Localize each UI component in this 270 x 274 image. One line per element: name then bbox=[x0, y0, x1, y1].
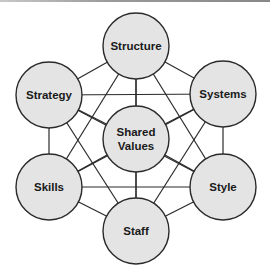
node-shared-values: SharedValues bbox=[103, 106, 169, 172]
node-circle bbox=[103, 106, 169, 172]
node-label: Structure bbox=[110, 40, 161, 52]
node-label: Style bbox=[209, 181, 237, 193]
node-label: Staff bbox=[123, 225, 149, 237]
nodes: StructureStrategySystemsSharedValuesSkil… bbox=[16, 13, 256, 264]
node-style: Style bbox=[190, 154, 256, 220]
node-systems: Systems bbox=[190, 61, 256, 127]
node-structure: Structure bbox=[103, 13, 169, 79]
seven-s-diagram: StructureStrategySystemsSharedValuesSkil… bbox=[0, 0, 270, 274]
node-strategy: Strategy bbox=[16, 62, 82, 128]
node-label: Shared bbox=[117, 126, 156, 138]
node-label: Values bbox=[118, 140, 154, 152]
node-skills: Skills bbox=[16, 154, 82, 220]
node-label: Strategy bbox=[26, 89, 73, 101]
node-label: Skills bbox=[34, 181, 64, 193]
node-label: Systems bbox=[199, 88, 246, 100]
node-staff: Staff bbox=[103, 198, 169, 264]
